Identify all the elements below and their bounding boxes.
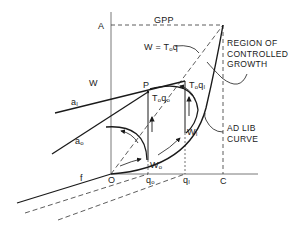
x-tick-q1: qI: [183, 175, 190, 187]
line-a1-label: aI: [71, 97, 78, 109]
adlib-leader: [205, 113, 223, 132]
origin-label: O: [108, 175, 115, 185]
gpp-label: GPP: [154, 15, 174, 25]
line-a0-label: ao: [75, 136, 84, 148]
t0q0-label: Toqo: [152, 93, 170, 105]
adlib-note-line-2: CURVE: [227, 134, 258, 145]
curve-arrow-lower: [120, 159, 141, 166]
point-p-marker: [147, 91, 149, 93]
region-note-line-2: CONTROLLED: [227, 49, 288, 60]
x-tick-q0: qo: [146, 175, 155, 187]
region-note-line-1: REGION OF: [227, 38, 288, 49]
equation-w: W: [144, 42, 153, 52]
t0q1-label: ToqI: [189, 80, 205, 92]
region-note-line-3: GROWTH: [227, 59, 288, 70]
x-tick-c: C: [220, 176, 227, 186]
w1-label: WI: [187, 127, 198, 139]
line-f-label: f: [80, 173, 83, 183]
dashed-parallel-1: [25, 174, 148, 213]
axis-vertical-label: W: [89, 78, 98, 88]
controlled-growth-arc-lower: [106, 127, 147, 160]
equation-label: W = Toq: [144, 42, 178, 54]
dashed-parallel-2: [58, 174, 185, 220]
equation-q: q: [173, 42, 178, 52]
equation-eq: =: [155, 42, 160, 52]
adlib-note-line-1: AD LIB: [227, 123, 258, 134]
growth-diagram-canvas: [0, 0, 291, 229]
w0-label: Wo: [150, 160, 162, 172]
axis-top-label: A: [98, 21, 104, 31]
point-p-label: P: [143, 80, 149, 90]
equation-leader: [175, 46, 199, 53]
adlib-note: AD LIB CURVE: [227, 123, 258, 144]
region-note: REGION OF CONTROLLED GROWTH: [227, 38, 288, 70]
line-f: [17, 174, 111, 203]
